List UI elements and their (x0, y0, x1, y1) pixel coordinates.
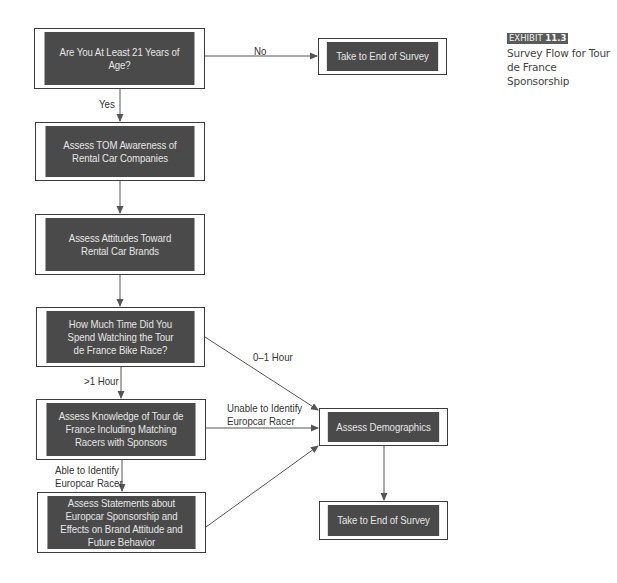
edge-label-no: No (254, 45, 266, 58)
node-end-survey-bottom: Take to End of Survey (319, 501, 448, 540)
node-time-watching: How Much Time Did You Spend Watching the… (36, 307, 205, 367)
edge-zero-to-one-hour (205, 337, 318, 410)
edge-label-zero-to-one-hour: 0–1 Hour (253, 351, 293, 364)
node-label: Are You At Least 21 Years of Age? (45, 32, 195, 85)
node-end-survey-top: Take to End of Survey (318, 38, 447, 75)
node-label: Assess TOM Awareness of Rental Car Compa… (45, 126, 194, 177)
exhibit-number: 11.3 (545, 33, 566, 43)
exhibit-tag-label: EXHIBIT (509, 33, 543, 43)
exhibit-tag: EXHIBIT 11.3 (507, 33, 568, 44)
node-label: Assess Attitudes Toward Rental Car Brand… (45, 218, 194, 271)
node-label: How Much Time Did You Spend Watching the… (46, 311, 194, 363)
node-label: Take to End of Survey (328, 505, 439, 536)
node-statements: Assess Statements about Europcar Sponsor… (37, 492, 206, 553)
edge-statements-to-demographics (206, 446, 318, 527)
node-age-question: Are You At Least 21 Years of Age? (34, 28, 205, 89)
node-label: Assess Demographics (328, 412, 439, 442)
edge-label-able-to-identify: Able to Identify Europcar Racer (55, 464, 123, 490)
node-label: Assess Knowledge of Tour de France Inclu… (46, 403, 195, 456)
node-attitudes: Assess Attitudes Toward Rental Car Brand… (35, 214, 205, 275)
node-label: Assess Statements about Europcar Sponsor… (47, 496, 195, 549)
node-knowledge: Assess Knowledge of Tour de France Inclu… (36, 399, 206, 460)
edge-label-yes: Yes (99, 98, 115, 111)
node-tom-awareness: Assess TOM Awareness of Rental Car Compa… (35, 122, 205, 181)
exhibit-title: Survey Flow for Tour de France Sponsorsh… (507, 46, 617, 88)
exhibit-caption: EXHIBIT 11.3 Survey Flow for Tour de Fra… (507, 27, 617, 88)
node-label: Take to End of Survey (327, 42, 438, 71)
edge-label-unable-to-identify: Unable to Identify Europcar Racer (227, 402, 302, 428)
node-demographics: Assess Demographics (319, 408, 448, 446)
survey-flow-diagram: Are You At Least 21 Years of Age? Take t… (0, 0, 617, 583)
edge-label-more-than-one-hour: >1 Hour (84, 375, 119, 388)
